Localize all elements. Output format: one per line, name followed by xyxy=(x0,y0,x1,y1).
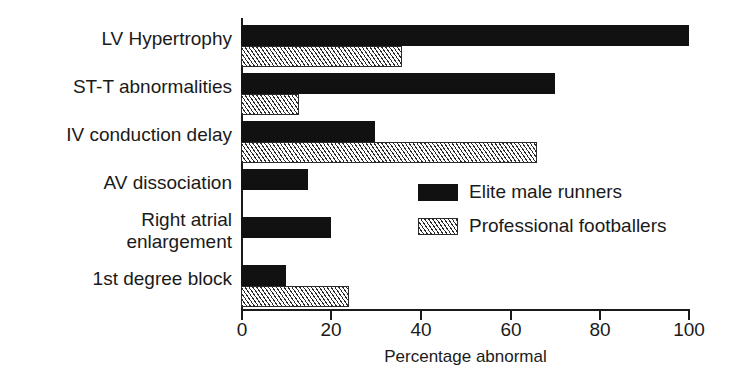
bar-1st-degree-block-elite-male-runners xyxy=(241,265,286,286)
category-label-st-t-abnormalities: ST-T abnormalities xyxy=(0,76,232,98)
bar-chart: LV Hypertrophy ST-T abnormalities IV con… xyxy=(0,0,731,376)
bar-group-st-t-abnormalities xyxy=(241,73,689,115)
bar-av-dissociation-elite-male-runners xyxy=(241,169,308,190)
x-axis-tick-label-60: 60 xyxy=(500,320,521,339)
legend-label-elite-male-runners: Elite male runners xyxy=(469,182,622,202)
bar-st-t-abnormalities-professional-footballers xyxy=(241,94,299,115)
x-axis-tick-label-0: 0 xyxy=(237,320,248,339)
legend-item-professional-footballers: Professional footballers xyxy=(418,216,667,236)
bar-lv-hypertrophy-elite-male-runners xyxy=(241,25,689,46)
category-label-iv-conduction-delay: IV conduction delay xyxy=(0,124,232,146)
x-axis-tick-label-40: 40 xyxy=(410,320,431,339)
bar-lv-hypertrophy-professional-footballers xyxy=(241,46,402,67)
bar-group-lv-hypertrophy xyxy=(241,25,689,67)
legend-label-professional-footballers: Professional footballers xyxy=(469,216,667,236)
legend-item-elite-male-runners: Elite male runners xyxy=(418,182,667,202)
bar-group-iv-conduction-delay xyxy=(241,121,689,163)
bar-iv-conduction-delay-elite-male-runners xyxy=(241,121,375,142)
plot-area xyxy=(241,18,689,310)
category-label-right-atrial-enlargement: Right atrial enlargement xyxy=(0,209,232,253)
x-axis-title: Percentage abnormal xyxy=(241,348,690,366)
bar-group-1st-degree-block xyxy=(241,265,689,307)
legend-swatch-solid-icon xyxy=(418,184,458,201)
x-axis-tick-label-100: 100 xyxy=(673,320,705,339)
bar-1st-degree-block-professional-footballers xyxy=(241,286,349,307)
x-axis-tick-label-80: 80 xyxy=(589,320,610,339)
bar-right-atrial-enlargement-elite-male-runners xyxy=(241,217,331,238)
legend: Elite male runners Professional football… xyxy=(418,182,667,250)
bar-st-t-abnormalities-elite-male-runners xyxy=(241,73,555,94)
category-label-lv-hypertrophy: LV Hypertrophy xyxy=(0,28,232,50)
category-label-av-dissociation: AV dissociation xyxy=(0,172,232,194)
legend-swatch-hatch-icon xyxy=(418,218,458,235)
x-axis-tick-label-20: 20 xyxy=(320,320,341,339)
category-label-1st-degree-block: 1st degree block xyxy=(0,268,232,290)
bar-iv-conduction-delay-professional-footballers xyxy=(241,142,537,163)
